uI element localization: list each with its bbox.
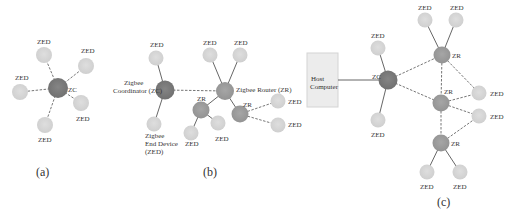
- node-label: ZR: [444, 88, 453, 96]
- node-label: ZED: [418, 4, 432, 12]
- coordinator-node: [379, 71, 398, 90]
- host-label-line2: Computer: [310, 83, 339, 91]
- node-label: ZED: [371, 32, 385, 40]
- node-label: ZED: [150, 41, 164, 49]
- node-label: ZR: [451, 140, 460, 148]
- router-node: [216, 82, 234, 100]
- node-label: ZED: [38, 136, 52, 144]
- node-label: ZED: [15, 74, 29, 82]
- panel-b-tree-topology: ZED ZED ZED Zigbee Coordinator (ZC) Zigb…: [113, 39, 302, 179]
- node-label: ZR: [243, 101, 252, 109]
- node-label: ZED: [234, 39, 248, 47]
- node-label: ZED: [490, 113, 504, 121]
- coordinator-node: [48, 78, 68, 98]
- end-device-node: [184, 126, 199, 141]
- end-device-node: [420, 165, 435, 180]
- node-label: ZC: [372, 73, 381, 81]
- panel-caption: (b): [203, 165, 217, 179]
- router-node: [433, 95, 450, 112]
- end-device-node: [371, 113, 386, 128]
- end-device-node: [78, 58, 94, 74]
- end-device-node: [12, 84, 28, 100]
- end-device-node: [149, 51, 164, 66]
- router-node: [433, 135, 450, 152]
- node-label: ZED: [185, 140, 199, 148]
- node-label: ZC: [68, 86, 77, 94]
- end-device-node: [449, 13, 464, 28]
- end-device-node: [472, 86, 487, 101]
- panel-c-edges: [338, 20, 479, 172]
- panel-c-mesh-topology: Host Computer: [307, 4, 504, 209]
- end-device-node: [37, 117, 53, 133]
- panel-caption: (a): [36, 165, 49, 179]
- end-device-label-line3: (ZED): [145, 148, 164, 156]
- node-label: ZED: [453, 183, 467, 191]
- node-label: ZED: [490, 90, 504, 98]
- panel-caption: (c): [437, 195, 450, 209]
- node-label: ZED: [288, 121, 302, 129]
- node-label: ZED: [76, 115, 90, 123]
- end-device-node: [271, 94, 286, 109]
- end-device-node: [211, 116, 226, 131]
- end-device-node: [418, 13, 433, 28]
- end-device-node: [73, 95, 89, 111]
- zigbee-topology-diagram: ZED ZED ZED ZED ZED ZC (a): [0, 0, 517, 217]
- coordinator-label-line2: Coordinator (ZC): [113, 87, 163, 95]
- node-label: ZED: [420, 183, 434, 191]
- end-device-node: [271, 118, 286, 133]
- router-node: [434, 47, 451, 64]
- end-device-node: [472, 109, 487, 124]
- node-label: ZED: [37, 38, 51, 46]
- panel-a-star-topology: ZED ZED ZED ZED ZED ZC (a): [12, 38, 95, 179]
- end-device-node: [453, 165, 468, 180]
- end-device-node: [36, 47, 52, 63]
- end-device-label-line1: Zigbee: [145, 132, 164, 140]
- node-label: ZED: [450, 4, 464, 12]
- end-device-node: [203, 48, 218, 63]
- host-label-line1: Host: [311, 75, 324, 83]
- node-label: ZED: [288, 98, 302, 106]
- end-device-label-line2: End Device: [145, 140, 178, 148]
- node-label: ZED: [215, 135, 229, 143]
- node-label: ZR: [197, 95, 206, 103]
- node-label: ZED: [203, 39, 217, 47]
- end-device-node: [147, 117, 162, 132]
- end-device-node: [233, 48, 248, 63]
- coordinator-label-line1: Zigbee: [124, 79, 143, 87]
- end-device-node: [371, 41, 386, 56]
- router-label: Zigbee Router (ZR): [236, 86, 292, 94]
- router-node: [193, 102, 210, 119]
- node-label: ZR: [452, 52, 461, 60]
- node-label: ZED: [81, 47, 95, 55]
- node-label: ZED: [371, 131, 385, 139]
